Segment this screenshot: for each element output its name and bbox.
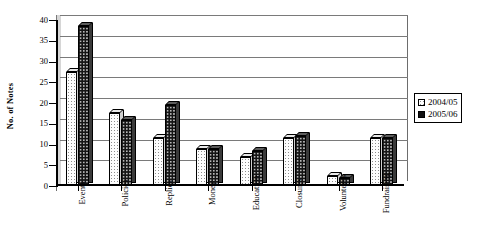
y-axis-tick-label: 0 [2,182,48,191]
x-axis-tick-label: Events [72,191,84,243]
legend-item: 2004/05 [418,96,458,108]
x-axis-tick-label: Fundraising [376,191,388,243]
x-axis-tick-label-text: Replies [165,180,174,206]
gridline [60,15,408,16]
plot-axes [56,20,404,186]
y-axis-tick-label: 5 [2,161,48,170]
bar-chart: No. of Notes 4035302520151050 EventsPoli… [0,0,494,245]
x-axis-tick-label-text: Fundraising [382,173,391,214]
legend-swatch-icon [418,99,425,106]
x-axis-tick-labels: EventsPoliciesRepliesMoneyEducationClosu… [56,191,408,245]
x-axis-tick-label: Money [202,191,214,243]
x-axis-tick-label: Policies [115,191,127,243]
x-axis-tick-label-text: Education [252,176,261,210]
y-axis-tick-label: 25 [2,78,48,87]
legend-swatch-icon [418,111,425,118]
y-axis-tick-label: 15 [2,119,48,128]
x-axis-tick-label-text: Volunteers [339,175,348,211]
y-axis-tick-label: 20 [2,99,48,108]
legend: 2004/05 2005/06 [414,93,462,123]
legend-item-label: 2004/05 [428,98,458,107]
x-axis-tick-label-text: Money [208,181,217,205]
y-axis-tick-label: 30 [2,57,48,66]
x-axis-tick-label-text: Events [78,181,87,204]
x-axis-tick-label-text: Policies [121,180,130,207]
legend-item: 2005/06 [418,108,458,120]
x-axis-tick-label: Replies [159,191,171,243]
x-axis-tick-label: Education [246,191,258,243]
y-axis-tick-label: 40 [2,16,48,25]
y-axis-tick [49,186,58,187]
x-axis-tick-label: Volunteers [333,191,345,243]
legend-item-label: 2005/06 [428,110,458,119]
x-axis-tick-label: Closures [289,191,301,243]
y-axis-tick-label: 10 [2,140,48,149]
y-axis-tick-label: 35 [2,36,48,45]
x-axis-tick-label-text: Closures [295,178,304,208]
